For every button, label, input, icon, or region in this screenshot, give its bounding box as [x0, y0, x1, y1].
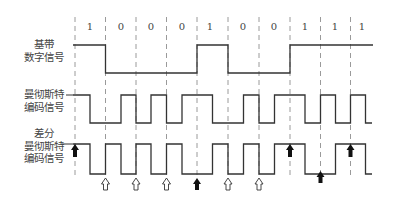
bit-label: 0: [271, 21, 277, 32]
filled-up-arrow-icon: [317, 171, 325, 183]
hollow-arrows: [102, 178, 264, 190]
bit-label: 1: [207, 21, 213, 32]
filled-up-arrow-icon: [347, 144, 355, 157]
bit-label: 1: [359, 21, 365, 32]
encoding-diagram: 1 0 0 0 1 0 0 1 1 1: [0, 0, 395, 202]
filled-up-arrow-icon: [71, 144, 79, 157]
manchester-waveform: [73, 95, 372, 123]
hollow-up-arrow-icon: [224, 178, 232, 190]
bit-label: 0: [118, 21, 124, 32]
hollow-up-arrow-icon: [132, 178, 140, 190]
hollow-up-arrow-icon: [102, 178, 110, 190]
bit-label: 1: [302, 21, 308, 32]
hollow-up-arrow-icon: [255, 178, 263, 190]
hollow-up-arrow-icon: [163, 178, 171, 190]
bit-label: 0: [240, 21, 246, 32]
bit-label: 0: [179, 21, 185, 32]
filled-up-arrow-icon: [286, 144, 294, 157]
bit-label: 1: [332, 21, 338, 32]
filled-up-arrow-icon: [193, 178, 201, 190]
bit-labels: 1 0 0 0 1 0 0 1 1 1: [87, 21, 365, 32]
diff-manchester-waveform: [73, 144, 372, 174]
bit-label: 1: [87, 21, 93, 32]
baseband-waveform: [73, 45, 373, 73]
bit-label: 0: [148, 21, 154, 32]
